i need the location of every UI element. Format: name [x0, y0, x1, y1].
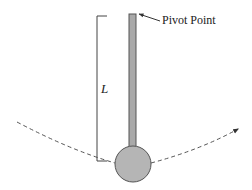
- length-label: L: [100, 81, 108, 96]
- pendulum-bob: [115, 146, 151, 182]
- pivot-pointer-arrow: [139, 14, 160, 21]
- pendulum-diagram: L Pivot Point: [0, 0, 252, 190]
- pendulum-rod: [129, 14, 136, 149]
- pivot-point-label: Pivot Point: [162, 13, 216, 27]
- swing-path-arc: [17, 122, 115, 163]
- swing-path-arc-right: [151, 129, 238, 163]
